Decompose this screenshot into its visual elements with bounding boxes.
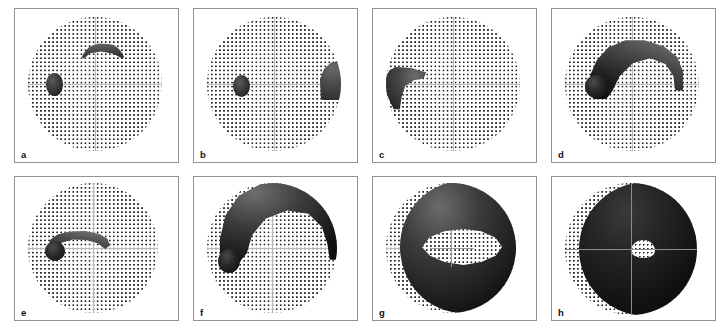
- paracentral-oval-scotoma: [46, 73, 63, 96]
- temporal-wedge-defect: [320, 57, 341, 100]
- visual-field-disc-b: [207, 17, 341, 151]
- visual-field-disc-g: [386, 183, 516, 313]
- defect-layer-f: [207, 183, 337, 313]
- panel-label-d: d: [558, 150, 564, 160]
- visual-field-disc-c: [386, 17, 520, 151]
- panel-label-c: c: [379, 150, 384, 160]
- panel-label-h: h: [558, 308, 564, 318]
- visual-field-disc-d: [565, 17, 699, 151]
- panel-label-e: e: [21, 308, 26, 318]
- visual-field-disc-h: [565, 183, 697, 315]
- defect-layer-b: [207, 17, 341, 151]
- horizontal-meridian-icon: [430, 248, 474, 249]
- arcuate-nasal-knob: [585, 75, 607, 98]
- panel-row-bottom: e f: [0, 176, 681, 326]
- panel-row-top: a b: [0, 8, 681, 168]
- defect-layer-c: [386, 17, 520, 151]
- superior-arcuate-band: [80, 43, 126, 73]
- defect-layer-d: [565, 17, 699, 151]
- panel-f[interactable]: f: [193, 176, 358, 321]
- tick-icon: [631, 203, 632, 210]
- nasal-step-defect: [386, 67, 428, 111]
- tick-icon: [631, 291, 632, 298]
- panel-c[interactable]: c: [372, 8, 537, 163]
- visual-field-disc-a: [28, 17, 162, 151]
- panel-label-g: g: [379, 308, 385, 318]
- arcuate-nasal-knob: [218, 249, 240, 273]
- panel-label-a: a: [21, 150, 26, 160]
- defect-layer-e: [28, 183, 158, 313]
- vertical-meridian-icon: [451, 231, 452, 267]
- tick-icon: [669, 249, 676, 250]
- crosshair-h: [565, 183, 697, 315]
- panel-d[interactable]: d: [551, 8, 716, 163]
- crosshair-g-overlay: [386, 183, 516, 313]
- paracentral-oval-scotoma: [233, 75, 250, 97]
- panel-label-b: b: [200, 150, 206, 160]
- visual-field-disc-e: [28, 183, 158, 313]
- visual-field-disc-f: [207, 183, 337, 313]
- panel-a[interactable]: a: [14, 8, 179, 163]
- panel-g[interactable]: g: [372, 176, 537, 321]
- panel-e[interactable]: e: [14, 176, 179, 321]
- superior-hemifield-loss: [220, 183, 337, 263]
- panel-label-f: f: [200, 308, 203, 318]
- panel-h[interactable]: h: [551, 176, 716, 321]
- panel-b[interactable]: b: [193, 8, 358, 163]
- tick-icon: [587, 249, 594, 250]
- arcuate-nasal-knob: [45, 241, 65, 261]
- defect-layer-a: [28, 17, 162, 151]
